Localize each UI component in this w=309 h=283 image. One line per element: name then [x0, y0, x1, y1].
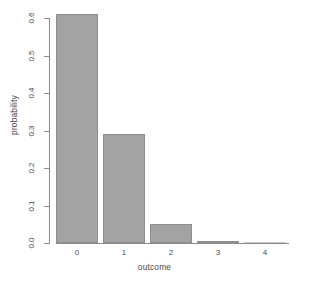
- y-axis-tick-mark: [44, 56, 49, 57]
- bar: [56, 14, 98, 243]
- y-axis-tick-label: 0.3: [22, 126, 42, 136]
- y-axis-title: probability: [9, 65, 19, 165]
- y-axis-tick-label: 0.5: [22, 51, 42, 61]
- y-axis-line: [49, 18, 50, 244]
- x-axis-line: [56, 243, 289, 244]
- y-axis-tick-mark: [44, 168, 49, 169]
- y-axis-tick-mark: [44, 131, 49, 132]
- y-axis-tick-label: 0.4: [22, 88, 42, 98]
- y-axis-tick-mark: [44, 93, 49, 94]
- x-axis-tick-label: 0: [56, 247, 98, 258]
- x-axis-tick-label: 3: [197, 247, 239, 258]
- y-axis-tick-mark: [44, 206, 49, 207]
- x-axis-tick-label: 1: [103, 247, 145, 258]
- y-axis-tick-label: 0.0: [22, 238, 42, 248]
- y-axis-tick-label: 0.2: [22, 163, 42, 173]
- y-axis-tick-label: 0.6: [22, 13, 42, 23]
- y-axis-tick-mark: [44, 243, 49, 244]
- x-axis-title: outcome: [0, 262, 309, 272]
- y-axis-tick-label: 0.1: [22, 201, 42, 211]
- x-axis-tick-label: 4: [244, 247, 286, 258]
- bar: [103, 134, 145, 243]
- barplot-figure: probability 0.00.10.20.30.40.50.6 01234 …: [0, 0, 309, 283]
- y-axis-tick-mark: [44, 18, 49, 19]
- x-axis-tick-label: 2: [150, 247, 192, 258]
- bar: [150, 224, 192, 243]
